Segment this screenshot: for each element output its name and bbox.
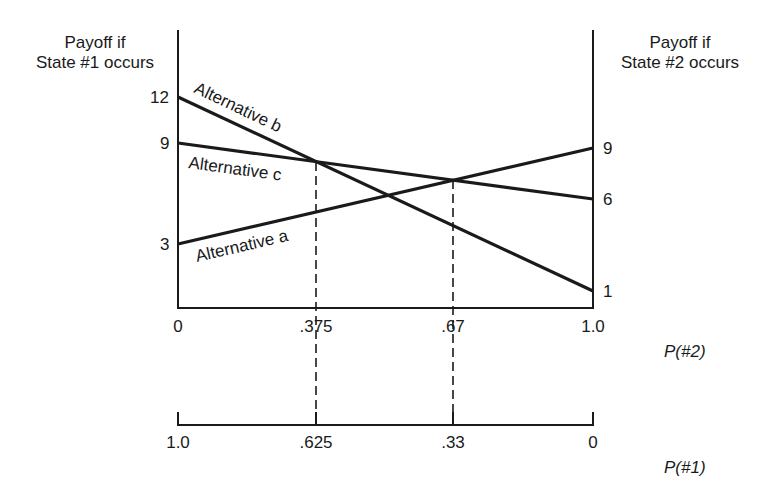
top-x-tick-0: 0 xyxy=(158,317,198,337)
series-label-c: Alternative c xyxy=(187,153,283,184)
left-tick-9: 9 xyxy=(160,134,169,154)
right-axis-title: Payoff if State #2 occurs xyxy=(605,33,755,73)
bottom-x-tick-33: .33 xyxy=(433,433,473,453)
bottom-x-tick-625: .625 xyxy=(291,433,341,453)
bottom-x-tick-0: 0 xyxy=(573,433,613,453)
chart-canvas: Alternative b Alternative c Alternative … xyxy=(0,0,774,491)
left-tick-3: 3 xyxy=(160,235,169,255)
bottom-x-axis-label: P(#1) xyxy=(664,458,706,478)
left-tick-12: 12 xyxy=(150,88,169,108)
right-tick-6: 6 xyxy=(603,190,612,210)
top-x-axis-label: P(#2) xyxy=(664,342,706,362)
top-x-tick-1: 1.0 xyxy=(573,317,613,337)
series-label-a: Alternative a xyxy=(194,226,291,266)
bottom-x-tick-1: 1.0 xyxy=(158,433,198,453)
top-x-tick-375: .375 xyxy=(291,317,341,337)
right-tick-9: 9 xyxy=(603,139,612,159)
right-tick-1: 1 xyxy=(603,282,612,302)
series-line-b xyxy=(178,97,593,291)
left-axis-title: Payoff if State #1 occurs xyxy=(20,33,170,73)
series-label-b: Alternative b xyxy=(191,78,284,136)
top-x-tick-67: .67 xyxy=(433,317,473,337)
